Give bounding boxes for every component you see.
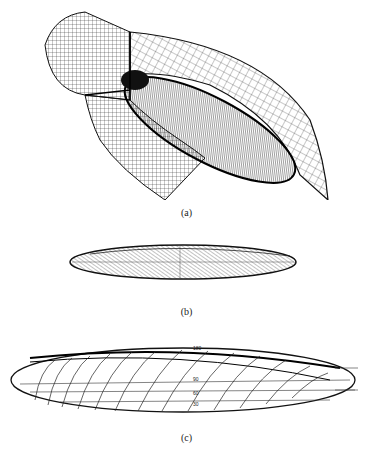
label-60: 60 bbox=[193, 390, 199, 396]
label-30: 30 bbox=[193, 401, 199, 407]
panel-a-mesh-figure bbox=[0, 0, 373, 200]
panel-a bbox=[0, 0, 373, 200]
label-90: 90 bbox=[193, 376, 199, 382]
caption-b: (b) bbox=[0, 306, 373, 317]
label-180: 180 bbox=[193, 345, 202, 351]
panel-b bbox=[0, 240, 373, 290]
caption-c: (c) bbox=[0, 432, 373, 443]
caption-a: (a) bbox=[0, 207, 373, 218]
panel-c: 180 90 60 30 bbox=[0, 340, 373, 415]
panel-c-streamline-figure: 180 90 60 30 bbox=[0, 340, 373, 415]
panel-b-ellipsoid-mesh bbox=[0, 240, 373, 290]
